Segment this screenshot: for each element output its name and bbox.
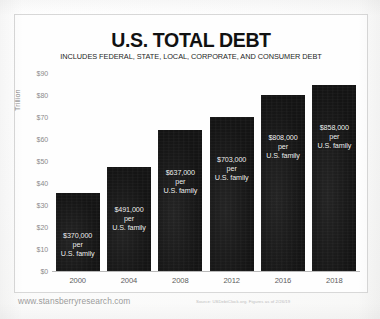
bar-annotation-line1: $703,000 per — [212, 155, 252, 173]
bar-annotation-line2: U.S. family — [314, 141, 354, 150]
bar: $637,000 perU.S. family — [158, 130, 202, 271]
bar-annotation: $637,000 perU.S. family — [160, 168, 200, 195]
x-axis-tick: 2012 — [206, 276, 257, 285]
bar-annotation-line2: U.S. family — [212, 173, 252, 182]
bar-annotation-line2: U.S. family — [58, 249, 98, 258]
y-axis-tick: $0 — [40, 268, 48, 275]
chart-subtitle: INCLUDES FEDERAL, STATE, LOCAL, CORPORAT… — [20, 52, 361, 61]
chart-title: U.S. TOTAL DEBT — [27, 28, 354, 52]
bar-annotation: $491,000 perU.S. family — [109, 205, 149, 232]
bar-annotation: $370,000 perU.S. family — [58, 231, 98, 258]
y-axis-tick: $50 — [37, 158, 48, 165]
y-axis-tick: $70 — [37, 114, 48, 121]
website-url[interactable]: www.stansberryresearch.com — [18, 296, 130, 306]
y-axis-tick: $60 — [37, 136, 48, 143]
bar: $808,000 perU.S. family — [261, 95, 305, 271]
x-axis-line — [52, 271, 360, 272]
bar-annotation-line1: $858,000 per — [314, 123, 354, 141]
y-axis-tick: $80 — [37, 92, 48, 99]
x-axis-tick: 2000 — [52, 276, 103, 285]
bar-annotation-line2: U.S. family — [263, 151, 303, 160]
bar: $858,000 perU.S. family — [312, 85, 356, 271]
bar: $370,000 perU.S. family — [56, 193, 100, 271]
x-axis-tick: 2016 — [257, 276, 308, 285]
x-axis-tick: 2008 — [155, 276, 206, 285]
y-axis-tick: $90 — [37, 70, 48, 77]
bar-annotation: $858,000 perU.S. family — [314, 123, 354, 150]
x-axis-tick: 2004 — [103, 276, 154, 285]
x-axis-tick: 2018 — [309, 276, 360, 285]
bar: $703,000 perU.S. family — [210, 117, 254, 271]
bar-series: $370,000 perU.S. family$491,000 perU.S. … — [52, 73, 360, 271]
bar: $491,000 perU.S. family — [107, 167, 151, 272]
y-axis-title: Trillion — [13, 89, 22, 111]
bar-annotation-line1: $808,000 per — [263, 133, 303, 151]
bar-annotation-line2: U.S. family — [160, 186, 200, 195]
bar-annotation-line1: $370,000 per — [58, 231, 98, 249]
bar-annotation-line1: $637,000 per — [160, 168, 200, 186]
scanned-page-background: U.S. TOTAL DEBT INCLUDES FEDERAL, STATE,… — [0, 0, 380, 319]
bar-annotation-line1: $491,000 per — [109, 205, 149, 223]
bar-annotation: $808,000 perU.S. family — [263, 133, 303, 160]
y-axis-tick: $30 — [37, 202, 48, 209]
plot-area: $90$80$70$60$50$40$30$20$10$0 $370,000 p… — [52, 73, 360, 271]
bar-annotation-line2: U.S. family — [109, 223, 149, 232]
chart-container: U.S. TOTAL DEBT INCLUDES FEDERAL, STATE,… — [14, 14, 368, 293]
y-axis-tick: $20 — [37, 224, 48, 231]
y-axis-tick: $40 — [37, 180, 48, 187]
bar-annotation: $703,000 perU.S. family — [212, 155, 252, 182]
y-axis-tick: $10 — [37, 246, 48, 253]
source-note: Source: USDebtClock.org. Figures as of 2… — [196, 299, 290, 304]
